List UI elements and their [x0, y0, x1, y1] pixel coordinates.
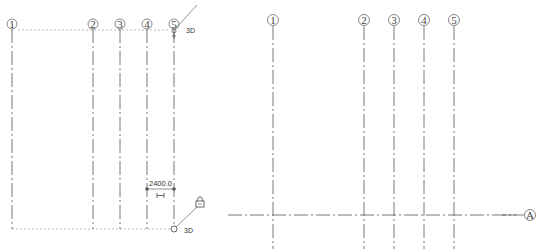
grid-plan-canvas[interactable]: 1 2 3 4 5	[0, 0, 220, 249]
grid-label: 3	[117, 18, 123, 30]
grid-label: 1	[9, 18, 15, 30]
grid-line-4[interactable]: 4	[419, 14, 430, 249]
grid-plan-view-right[interactable]: A 1 2 3 4 5	[220, 0, 544, 249]
grid-line-1[interactable]: 1	[268, 14, 279, 249]
grid-label: 4	[421, 14, 427, 26]
grid-line-4[interactable]: 4	[142, 18, 152, 229]
dimension-endpoint-icon[interactable]	[172, 187, 176, 191]
grid-label: 3	[391, 14, 397, 26]
grid-line-A[interactable]: A	[228, 209, 536, 221]
grid-label: 5	[171, 18, 177, 30]
dimension-value[interactable]: 2400.0	[149, 179, 172, 188]
temporary-dimension[interactable]: 2400.0	[145, 179, 176, 198]
dimension-toggle-icon[interactable]	[157, 193, 164, 198]
leader-line-bottom	[176, 207, 197, 227]
grid-view-canvas[interactable]: A 1 2 3 4 5	[220, 0, 544, 249]
top-3d-toggle[interactable]: 3D	[186, 27, 195, 34]
grid-label: 1	[270, 14, 276, 26]
grid-label: A	[526, 209, 534, 221]
lock-icon[interactable]	[196, 197, 204, 207]
top-3d-label[interactable]: 3D	[186, 27, 195, 34]
grid-line-5-selected[interactable]: 5	[169, 5, 197, 232]
grid-line-3[interactable]: 3	[389, 14, 400, 249]
grid-label: 2	[361, 14, 367, 26]
grid-line-2[interactable]: 2	[88, 18, 98, 229]
grid-line-2[interactable]: 2	[359, 14, 370, 249]
grid-line-5[interactable]: 5	[449, 14, 460, 249]
grid-line-1[interactable]: 1	[7, 18, 17, 229]
grid-label: 4	[144, 18, 150, 30]
bottom-3d-toggle[interactable]: 3D	[184, 227, 193, 234]
grid-label: 2	[90, 18, 96, 30]
grid-label: 5	[451, 14, 457, 26]
bottom-3d-label[interactable]: 3D	[184, 227, 193, 234]
leader-line-top	[176, 5, 197, 28]
grid-line-3[interactable]: 3	[115, 18, 125, 229]
grid-plan-view-left[interactable]: 1 2 3 4 5	[0, 0, 220, 249]
